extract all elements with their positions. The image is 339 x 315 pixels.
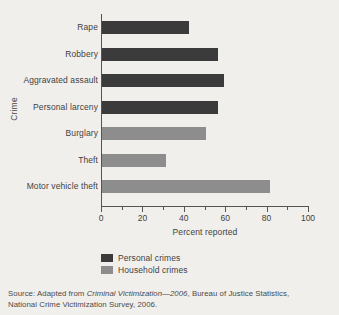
x-axis-title: Percent reported [101, 227, 309, 237]
category-label: Aggravated assault [10, 75, 98, 85]
category-labels: RapeRobberyAggravated assaultPersonal la… [10, 14, 98, 204]
legend-label: Personal crimes [118, 253, 180, 263]
x-axis-tick [225, 207, 226, 212]
legend-label: Household crimes [118, 265, 188, 275]
category-label: Robbery [10, 49, 98, 59]
category-label: Rape [10, 22, 98, 32]
source-prefix: Source: Adapted from [8, 289, 87, 298]
legend-swatch-icon [101, 254, 113, 262]
category-label: Burglary [10, 128, 98, 138]
x-axis-tick-label: 0 [89, 213, 113, 223]
x-axis-minor-tick [205, 207, 206, 210]
chart-figure: Crime RapeRobberyAggravated assaultPerso… [0, 0, 339, 315]
x-axis-tick-label: 20 [130, 213, 154, 223]
source-note: Source: Adapted from Criminal Victimizat… [8, 288, 338, 310]
bar [102, 21, 189, 34]
category-label: Theft [10, 155, 98, 165]
bar [102, 154, 166, 167]
source-publication-title: Criminal Victimization—2006 [87, 289, 188, 298]
source-line-1: Source: Adapted from Criminal Victimizat… [8, 288, 338, 299]
x-axis-minor-tick [163, 207, 164, 210]
legend-swatch-icon [101, 266, 113, 274]
x-axis-tick-label: 60 [213, 213, 237, 223]
bar [102, 48, 218, 61]
bar-series [101, 14, 311, 206]
category-label: Personal larceny [10, 102, 98, 112]
x-axis-tick-label: 100 [296, 213, 320, 223]
bar [102, 74, 224, 87]
x-axis-tick [184, 207, 185, 212]
category-label: Motor vehicle theft [10, 181, 98, 191]
source-suffix: , Bureau of Justice Statistics, [188, 289, 290, 298]
bar [102, 101, 218, 114]
x-axis-tick [142, 207, 143, 212]
x-axis-tick-label: 40 [172, 213, 196, 223]
x-axis-tick [101, 207, 102, 212]
x-axis-tick [267, 207, 268, 212]
legend-item: Personal crimes [101, 252, 188, 263]
x-axis-minor-tick [287, 207, 288, 210]
x-axis-tick [308, 207, 309, 212]
chart-legend: Personal crimesHousehold crimes [101, 252, 188, 276]
x-axis-minor-tick [122, 207, 123, 210]
plot-area: Crime RapeRobberyAggravated assaultPerso… [0, 8, 339, 223]
source-line-2: National Crime Victimization Survey, 200… [8, 299, 338, 310]
bar [102, 180, 270, 193]
legend-item: Household crimes [101, 264, 188, 275]
x-axis-tick-label: 80 [255, 213, 279, 223]
x-axis-minor-tick [246, 207, 247, 210]
bar [102, 127, 206, 140]
